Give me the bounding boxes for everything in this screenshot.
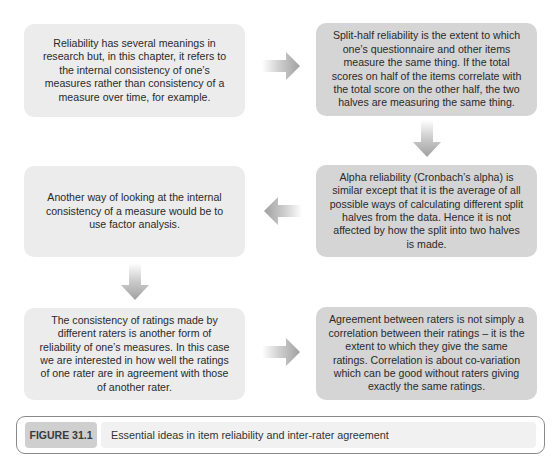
box-split-half: Split-half reliability is the extent to … xyxy=(316,23,537,116)
figure-caption-text: Essential ideas in item reliability and … xyxy=(101,422,536,448)
box-rater-agreement: Agreement between raters is not simply a… xyxy=(316,307,537,400)
box-alpha-reliability: Alpha reliability (Cronbach’s alpha) is … xyxy=(316,165,537,257)
box-text: The consistency of ratings made by diffe… xyxy=(36,314,233,394)
box-factor-analysis: Another way of looking at the internal c… xyxy=(24,166,245,257)
box-rater-consistency: The consistency of ratings made by diffe… xyxy=(24,308,245,400)
box-text: Reliability has several meanings in rese… xyxy=(36,37,233,104)
box-text: Alpha reliability (Cronbach’s alpha) is … xyxy=(328,171,525,251)
arrow-down-icon xyxy=(121,263,149,301)
box-text: Split-half reliability is the extent to … xyxy=(328,29,525,109)
figure-label: FIGURE 31.1 xyxy=(25,422,97,448)
arrow-right-icon xyxy=(262,52,302,80)
box-reliability-meaning: Reliability has several meanings in rese… xyxy=(24,24,245,117)
box-text: Another way of looking at the internal c… xyxy=(36,191,233,231)
arrow-down-icon xyxy=(413,120,441,158)
arrow-left-icon xyxy=(262,197,302,225)
arrow-right-icon xyxy=(262,338,302,366)
figure-caption: FIGURE 31.1 Essential ideas in item reli… xyxy=(16,416,545,454)
box-text: Agreement between raters is not simply a… xyxy=(328,313,525,393)
